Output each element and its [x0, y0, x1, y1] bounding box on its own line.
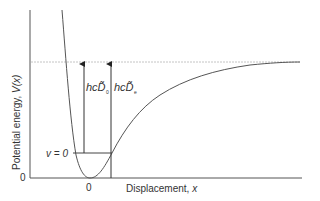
- y-axis-label: Potential energy, V(x): [11, 75, 22, 170]
- y-axis-zero-tick: 0: [20, 172, 26, 183]
- svg-text:hcD̃: hcD̃: [114, 81, 134, 93]
- x-axis-zero-tick: 0: [86, 182, 92, 193]
- d0-label: hcD̃ 0: [86, 81, 109, 95]
- de-label: hcD̃ e: [114, 81, 137, 95]
- svg-text:e: e: [134, 89, 137, 95]
- v0-level-label: v = 0: [46, 148, 68, 159]
- svg-text:0: 0: [106, 89, 109, 95]
- morse-potential-diagram: hcD̃ 0 hcD̃ e v = 0 0 0 Displacement, x …: [0, 0, 320, 201]
- svg-text:hcD̃: hcD̃: [86, 81, 106, 93]
- x-axis-label: Displacement, x: [126, 183, 198, 194]
